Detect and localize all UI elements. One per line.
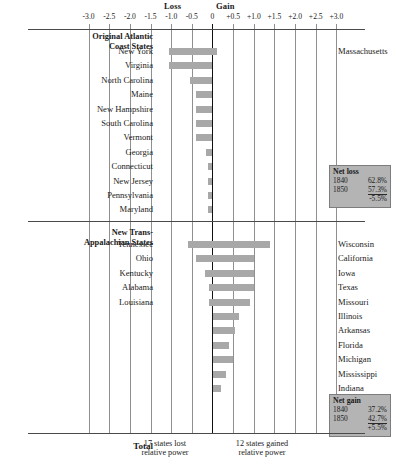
section-title-atlantic-line1: Original Atlantic (0, 32, 153, 42)
row-label-left: Pennsylvania (0, 190, 153, 200)
gain-note: 12 states gained relative power (216, 439, 308, 458)
gridline-+0.5 (233, 24, 234, 433)
bar (213, 313, 240, 320)
bar (208, 206, 212, 213)
bar (196, 134, 213, 141)
row-label-left: Maryland (0, 204, 153, 214)
loss-note-line2: relative power (119, 448, 211, 457)
row-label-right: Massachusetts (338, 46, 393, 56)
row-label-right: Illinois (338, 311, 393, 321)
row-label-right: Iowa (338, 268, 393, 278)
row-label-left: Louisiana (0, 297, 153, 307)
rule-bottom (28, 433, 365, 434)
bar (213, 327, 236, 334)
bar (205, 270, 254, 277)
row-label-right: Texas (338, 282, 393, 292)
net-gain-total: +5.5% (333, 424, 387, 433)
gridline-+2.0 (295, 24, 296, 433)
row-label-left: New York (0, 46, 153, 56)
gridline-+1.0 (254, 24, 255, 433)
bar (209, 284, 254, 291)
section-title-transapp-line1: New Trans- (0, 228, 153, 238)
row-label-right: Florida (338, 340, 393, 350)
row-label-right: Wisconsin (338, 239, 393, 249)
gridline-+1.5 (274, 24, 275, 433)
row-label-left: Georgia (0, 147, 153, 157)
row-label-right: Indiana (338, 383, 393, 393)
bar (196, 120, 213, 127)
rule-mid (28, 221, 365, 222)
bar (213, 385, 221, 392)
row-label-left: Ohio (0, 253, 153, 263)
gridline--0.5 (192, 24, 193, 433)
bar (190, 77, 213, 84)
row-label-left: Tennessee (0, 239, 153, 249)
bar (169, 62, 212, 69)
row-label-left: South Carolina (0, 118, 153, 128)
net-gain-box: Net gain 1840 37.2% 1850 42.7% +5.5% (329, 394, 391, 437)
row-label-left: Maine (0, 89, 153, 99)
row-label-left: Kentucky (0, 268, 153, 278)
gridline-+2.5 (316, 24, 317, 433)
loss-note: 17 states lost relative power (119, 439, 211, 458)
row-label-left: Connecticut (0, 161, 153, 171)
bar (208, 178, 212, 185)
row-label-left: Vermont (0, 132, 153, 142)
net-loss-box: Net loss 1840 62.8% 1850 57.3% -5.5% (329, 165, 391, 208)
gridline--1.0 (171, 24, 172, 433)
bar (196, 255, 254, 262)
bar (196, 91, 213, 98)
gain-note-line1: 12 states gained (216, 439, 308, 448)
bar (213, 342, 230, 349)
bar (213, 356, 234, 363)
row-label-right: Missouri (338, 297, 393, 307)
row-label-right: Arkansas (338, 325, 393, 335)
bar (188, 241, 271, 248)
net-loss-year-1850: 1850 (333, 186, 348, 196)
bar (206, 149, 213, 156)
bar (209, 299, 249, 306)
bar (208, 163, 212, 170)
row-label-left: Alabama (0, 282, 153, 292)
bar (208, 192, 212, 199)
congressional-power-chart: Loss Gain -3.0-2.5-2.0-1.5-1.0-0.50+0.5+… (0, 0, 393, 459)
row-label-right: California (338, 253, 393, 263)
rule-top (28, 29, 365, 30)
gain-note-line2: relative power (216, 448, 308, 457)
net-loss-total: -5.5% (333, 195, 387, 204)
row-label-right: Michigan (338, 354, 393, 364)
row-label-left: New Hampshire (0, 104, 153, 114)
bar (169, 48, 217, 55)
net-gain-year-1850: 1850 (333, 415, 348, 425)
row-label-right: Mississippi (338, 369, 393, 379)
bar (213, 371, 227, 378)
row-label-left: Virginia (0, 60, 153, 70)
row-label-left: North Carolina (0, 75, 153, 85)
bar (196, 106, 213, 113)
row-label-left: New Jersey (0, 176, 153, 186)
loss-note-line1: 17 states lost (119, 439, 211, 448)
